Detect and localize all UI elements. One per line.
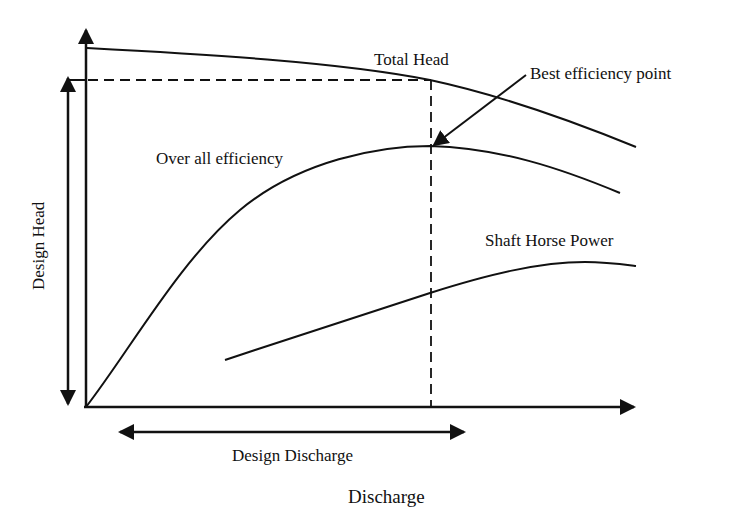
total-head-curve — [87, 48, 636, 147]
design-discharge-label: Design Discharge — [232, 447, 353, 464]
efficiency-curve — [86, 146, 620, 407]
efficiency-label: Over all efficiency — [156, 150, 283, 167]
shaft-horse-power-label: Shaft Horse Power — [485, 232, 613, 249]
best-efficiency-arrow — [434, 75, 526, 145]
x-axis-label: Discharge — [348, 487, 425, 506]
total-head-label: Total Head — [374, 51, 449, 68]
pump-characteristic-diagram: Total Head Best efficiency point Over al… — [0, 0, 734, 528]
best-efficiency-point-label: Best efficiency point — [530, 65, 671, 82]
design-head-label: Design Head — [30, 202, 47, 290]
